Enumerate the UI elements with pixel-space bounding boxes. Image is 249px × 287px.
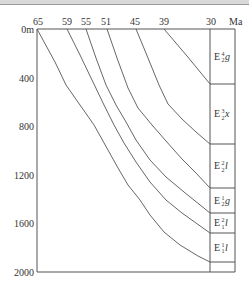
formation-suffix: l bbox=[225, 160, 228, 171]
formation-labels: E42gE32xE22lE12gE21lE11l bbox=[214, 51, 230, 255]
depth-tick-label: 1600 bbox=[14, 218, 34, 229]
formation-main: E bbox=[214, 217, 220, 228]
age-tick-label: 39 bbox=[159, 16, 169, 27]
formation-label: E12g bbox=[214, 195, 230, 208]
formation-label: E21l bbox=[214, 217, 228, 230]
curve-39ma bbox=[164, 29, 210, 84]
curve-59ma bbox=[67, 29, 210, 233]
age-tick-label: 55 bbox=[81, 16, 91, 27]
age-tick-label: 45 bbox=[130, 16, 140, 27]
age-axis-labels: 65595551453930 bbox=[33, 16, 216, 27]
formation-label: E32x bbox=[214, 108, 230, 121]
formation-main: E bbox=[214, 108, 220, 119]
formation-label: E11l bbox=[214, 242, 228, 255]
curve-55ma bbox=[86, 29, 210, 213]
formation-label: E42g bbox=[214, 51, 230, 64]
age-tick-label: 59 bbox=[62, 16, 72, 27]
depth-axis-labels: 0m400800120016002000 bbox=[14, 24, 34, 278]
formation-suffix: g bbox=[225, 195, 230, 206]
age-tick-label: 51 bbox=[101, 16, 111, 27]
formation-suffix: x bbox=[224, 108, 230, 119]
formation-suffix: g bbox=[225, 51, 230, 62]
depth-tick-label: 800 bbox=[19, 121, 34, 132]
curve-51ma bbox=[107, 29, 210, 188]
depth-tick-label: 1200 bbox=[14, 170, 34, 181]
formation-suffix: l bbox=[225, 242, 228, 253]
depth-tick-label: 0m bbox=[21, 24, 34, 35]
depth-tick-label: 400 bbox=[19, 73, 34, 84]
depth-tick-label: 2000 bbox=[14, 267, 34, 278]
burial-curves bbox=[37, 29, 210, 262]
formation-main: E bbox=[214, 160, 220, 171]
formation-main: E bbox=[214, 195, 220, 206]
formation-suffix: l bbox=[225, 217, 228, 228]
chart-frame bbox=[37, 29, 235, 272]
formation-label: E22l bbox=[214, 160, 228, 173]
formation-main: E bbox=[214, 242, 220, 253]
curve-45ma bbox=[136, 29, 210, 144]
age-tick-label: 30 bbox=[206, 16, 216, 27]
age-tick-label: 65 bbox=[33, 16, 43, 27]
formation-main: E bbox=[214, 51, 220, 62]
age-unit-label: Ma bbox=[229, 16, 243, 27]
burial-history-diagram: 65595551453930 Ma 0m400800120016002000 E… bbox=[0, 0, 249, 287]
curve-65ma bbox=[37, 29, 210, 262]
